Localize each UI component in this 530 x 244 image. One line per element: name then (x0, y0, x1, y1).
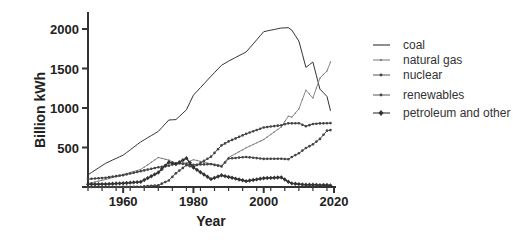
data-point (97, 177, 100, 180)
y-tick-label: 1000 (50, 101, 79, 116)
data-point (203, 160, 206, 163)
data-point (241, 134, 244, 137)
data-point (100, 182, 104, 186)
data-point (276, 124, 279, 127)
data-point (266, 158, 269, 161)
data-point (305, 125, 308, 128)
data-point (312, 143, 315, 146)
data-point (158, 157, 159, 158)
data-point (153, 167, 156, 170)
y-axis-title: Billion kWh (32, 72, 48, 148)
legend-item-natural-gas: natural gas (373, 53, 462, 67)
data-point (227, 175, 231, 179)
data-point (213, 176, 217, 180)
data-point (258, 177, 262, 181)
data-point (122, 186, 125, 189)
legend-marker-icon (380, 94, 383, 97)
data-point (230, 176, 234, 180)
data-point (227, 157, 230, 160)
series-line (88, 28, 331, 175)
data-point (231, 157, 234, 160)
data-point (157, 166, 160, 169)
data-point (150, 185, 153, 188)
data-point (185, 163, 188, 166)
line-chart: 500100015002000 1960198020002020 Billion… (0, 0, 530, 244)
data-point (87, 178, 90, 181)
data-point (256, 142, 257, 143)
data-point (196, 163, 199, 166)
data-point (139, 170, 142, 173)
data-point (251, 178, 255, 182)
data-point (196, 160, 197, 161)
data-point (164, 181, 167, 184)
data-point (224, 161, 227, 164)
data-point (245, 147, 246, 148)
data-point (241, 178, 245, 182)
data-point (220, 173, 224, 177)
data-point (309, 93, 310, 94)
data-point (252, 144, 253, 145)
data-point (245, 156, 248, 159)
legend-diamond-icon (379, 110, 384, 116)
data-point (125, 181, 129, 185)
data-point (111, 182, 115, 186)
legend-item-petroleum-and-other: petroleum and other (373, 106, 510, 120)
data-point (161, 158, 162, 159)
data-point (139, 180, 143, 184)
data-point (276, 175, 280, 179)
data-point (139, 185, 142, 188)
data-point (319, 122, 322, 125)
data-point (231, 155, 232, 156)
data-point (269, 158, 272, 161)
series-line (88, 158, 331, 185)
data-point (319, 138, 322, 141)
data-point (223, 174, 227, 178)
data-point (316, 87, 317, 88)
data-point (259, 127, 262, 130)
data-point (146, 185, 149, 188)
data-point (266, 126, 269, 129)
legend-label: petroleum and other (403, 106, 510, 120)
data-point (114, 181, 118, 185)
data-point (118, 186, 121, 189)
legend: coal natural gas nuclear renewables petr… (373, 38, 510, 120)
data-point (107, 182, 111, 186)
series-line (88, 62, 331, 183)
data-point (329, 129, 332, 132)
data-point (171, 176, 174, 179)
data-point (248, 156, 251, 159)
data-point (193, 159, 194, 160)
data-point (305, 147, 308, 150)
data-point (206, 163, 209, 166)
data-point (118, 181, 122, 185)
data-point (244, 179, 248, 183)
data-point (322, 122, 325, 125)
data-point (161, 182, 164, 185)
data-point (175, 172, 178, 175)
data-point (294, 122, 297, 125)
data-point (147, 164, 148, 165)
data-point (136, 171, 139, 174)
data-point (227, 140, 230, 143)
x-axis-title: Year (196, 213, 226, 229)
x-ticks: 1960198020002020 (88, 187, 348, 209)
data-point (165, 159, 166, 160)
data-point (235, 153, 236, 154)
data-point (238, 156, 241, 159)
data-point (265, 176, 269, 180)
data-point (213, 152, 216, 155)
data-point (94, 177, 97, 180)
data-point (259, 157, 262, 160)
data-point (290, 181, 294, 185)
data-point (308, 124, 311, 127)
x-tick-label: 2020 (320, 194, 349, 209)
data-point (143, 169, 146, 172)
data-point (242, 149, 243, 150)
data-point (298, 122, 301, 125)
series-petroleum-and-other (86, 156, 332, 188)
data-point (300, 182, 304, 186)
data-point (224, 142, 227, 145)
data-point (260, 140, 261, 141)
data-point (136, 185, 139, 188)
data-point (267, 136, 268, 137)
